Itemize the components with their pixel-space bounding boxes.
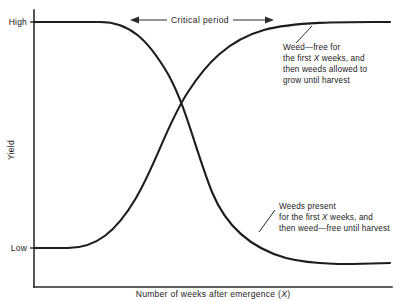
weeds-present-note-line-3: then weed—free until harvest: [279, 224, 390, 233]
yield-vs-weeks-line-chart: High Low Yield Number of weeks after eme…: [0, 0, 404, 301]
weed-free-note-line-4: grow until harvest: [283, 76, 350, 85]
weeds-present-note-line-1: Weeds present: [279, 202, 336, 211]
x-axis-title: Number of weeks after emergence (X): [136, 289, 291, 299]
critical-period-label: Critical period: [171, 15, 229, 25]
y-tick-label-low: Low: [11, 243, 28, 253]
y-axis-title: Yield: [6, 140, 16, 160]
weed-free-note-line-3: then weeds allowed to: [283, 65, 367, 74]
chart-background: [0, 0, 404, 301]
weeds-present-note-line-2: for the first X weeks, and: [279, 213, 373, 222]
weed-free-note-line-1: Weed—free for: [283, 43, 340, 52]
weed-free-note-line-2: the first X weeks, and: [283, 54, 365, 63]
y-tick-label-high: High: [9, 17, 27, 27]
chart-figure: High Low Yield Number of weeks after eme…: [0, 0, 404, 301]
